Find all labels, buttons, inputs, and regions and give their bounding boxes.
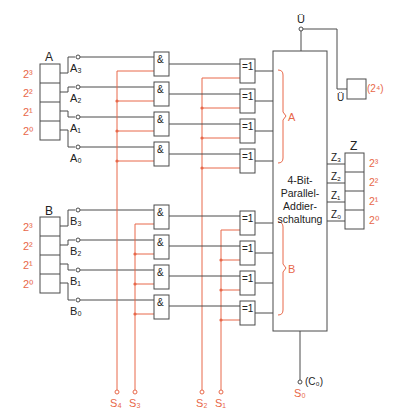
register-b-label: B — [45, 204, 53, 218]
input-z3: Z₃ — [331, 152, 341, 163]
output-a2: A₂ — [70, 92, 82, 104]
carry-in-label: (C₀) — [305, 376, 323, 387]
input-z0: Z₀ — [331, 209, 341, 220]
output-a3: A₃ — [70, 62, 82, 74]
xor-gate-symbol: =1 — [242, 213, 254, 224]
control-s1-label: S₁ — [215, 397, 226, 409]
output-a1: A₁ — [70, 122, 81, 134]
bracket-b-label: B — [288, 263, 295, 275]
xor-gate-symbol: =1 — [242, 243, 254, 254]
register-a: A 2³ 2² 2¹ 2⁰ A₃ A₂ A₁ A₀ — [23, 50, 154, 164]
output-b2: B₂ — [70, 245, 82, 257]
weight-a3: 2³ — [23, 68, 33, 80]
xor-gates-top: =1 =1 =1 =1 — [240, 59, 273, 173]
and-gate-symbol: & — [157, 267, 164, 278]
output-a0: A₀ — [70, 152, 82, 164]
output-b0: B₀ — [70, 305, 82, 317]
adder-label-line-2: Parallel- — [281, 187, 320, 199]
and-gate-symbol: & — [157, 114, 164, 125]
xor-gate-symbol: =1 — [242, 91, 254, 102]
control-s2-label: S₂ — [196, 397, 208, 409]
weight-b0: 2⁰ — [23, 278, 34, 290]
bracket-a-label: A — [288, 111, 296, 123]
control-s3-label: S₃ — [129, 397, 141, 409]
weight-a1: 2¹ — [23, 106, 33, 118]
output-b1: B₁ — [70, 275, 81, 287]
weight-z3: 2³ — [369, 157, 379, 169]
input-z1: Z₁ — [331, 190, 341, 201]
weight-b1: 2¹ — [23, 259, 33, 271]
and-gates-top: & & & & — [154, 52, 240, 166]
xor-gate-symbol: =1 — [242, 151, 254, 162]
control-s0-label: S₀ — [294, 387, 306, 399]
xor-gates-bottom: =1 =1 =1 =1 — [240, 211, 273, 325]
weight-a2: 2² — [23, 87, 33, 99]
adder-label-line-3: Addier- — [283, 200, 317, 212]
xor-gate-symbol: =1 — [242, 273, 254, 284]
weight-b3: 2³ — [23, 221, 33, 233]
input-z2: Z₂ — [331, 171, 341, 182]
register-z-label: Z — [350, 139, 357, 153]
and-gate-symbol: & — [157, 297, 164, 308]
and-gate-symbol: & — [157, 54, 164, 65]
overflow-weight: (2⁴) — [367, 83, 384, 94]
overflow-out-label: Ü — [337, 92, 344, 103]
and-gate-symbol: & — [157, 84, 164, 95]
weight-a0: 2⁰ — [23, 125, 34, 137]
control-s4-label: S₄ — [110, 397, 122, 409]
and-gate-symbol: & — [157, 144, 164, 155]
and-gate-symbol: & — [157, 207, 164, 218]
weight-z2: 2² — [369, 176, 379, 188]
parallel-adder: A B 4-Bit- Parallel- Addier- schaltung Ü… — [273, 13, 384, 399]
adder-label-line-1: 4-Bit- — [287, 174, 313, 186]
weight-b2: 2² — [23, 240, 33, 252]
adder-label-line-4: schaltung — [278, 213, 323, 225]
register-z: Z Z₃ Z₂ Z₁ Z₀ 2³ 2² 2¹ 2⁰ — [327, 139, 380, 229]
weight-z1: 2¹ — [369, 195, 379, 207]
xor-gate-symbol: =1 — [242, 61, 254, 72]
xor-gate-symbol: =1 — [242, 121, 254, 132]
weight-z0: 2⁰ — [369, 214, 380, 226]
adder-circuit-diagram: A 2³ 2² 2¹ 2⁰ A₃ A₂ A₁ A₀ B 2³ 2² — [0, 0, 398, 417]
output-b3: B₃ — [70, 215, 82, 227]
and-gate-symbol: & — [157, 237, 164, 248]
register-b: B 2³ 2² 2¹ 2⁰ B₃ B₂ B₁ B₀ — [23, 204, 154, 317]
overflow-top-label: Ü — [297, 13, 305, 25]
register-a-label: A — [45, 50, 53, 64]
and-gates-bottom: & & & & — [154, 205, 240, 319]
xor-gate-symbol: =1 — [242, 303, 254, 314]
